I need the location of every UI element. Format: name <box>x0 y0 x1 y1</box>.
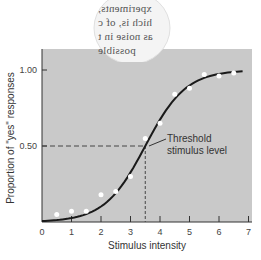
x-tick-label: 3 <box>128 227 133 237</box>
data-point <box>158 121 163 126</box>
data-point <box>69 209 74 214</box>
x-tick-label: 0 <box>39 227 44 237</box>
mirrored-text-line-2: hich is, of c <box>98 16 152 28</box>
mirrored-text-line-4: possible <box>98 44 136 56</box>
x-tick-label: 4 <box>157 227 162 237</box>
x-tick-label: 5 <box>187 227 192 237</box>
x-tick-label: 2 <box>98 227 103 237</box>
data-point <box>172 92 177 97</box>
data-point <box>187 86 192 91</box>
x-axis-label: Stimulus intensity <box>108 240 186 251</box>
data-point <box>231 71 236 76</box>
x-tick-label: 1 <box>69 227 74 237</box>
y-tick-label: 0.50 <box>19 141 37 151</box>
data-point <box>202 72 207 77</box>
mirrored-text-line-3: as noise in t <box>98 30 153 42</box>
annotation-line-1: Threshold <box>167 133 211 144</box>
data-point <box>84 209 89 214</box>
mirrored-text-line-1: xperiments, <box>98 2 152 14</box>
data-point <box>113 189 118 194</box>
y-tick-label: 1.00 <box>19 65 37 75</box>
x-tick-label: 7 <box>246 227 251 237</box>
y-axis-label: Proportion of "yes" responses <box>5 72 16 204</box>
data-point <box>54 212 59 217</box>
data-point <box>128 174 133 179</box>
data-point <box>143 136 148 141</box>
data-point <box>217 74 222 79</box>
data-point <box>99 192 104 197</box>
x-tick-label: 6 <box>216 227 221 237</box>
annotation-line-2: stimulus level <box>167 145 227 156</box>
